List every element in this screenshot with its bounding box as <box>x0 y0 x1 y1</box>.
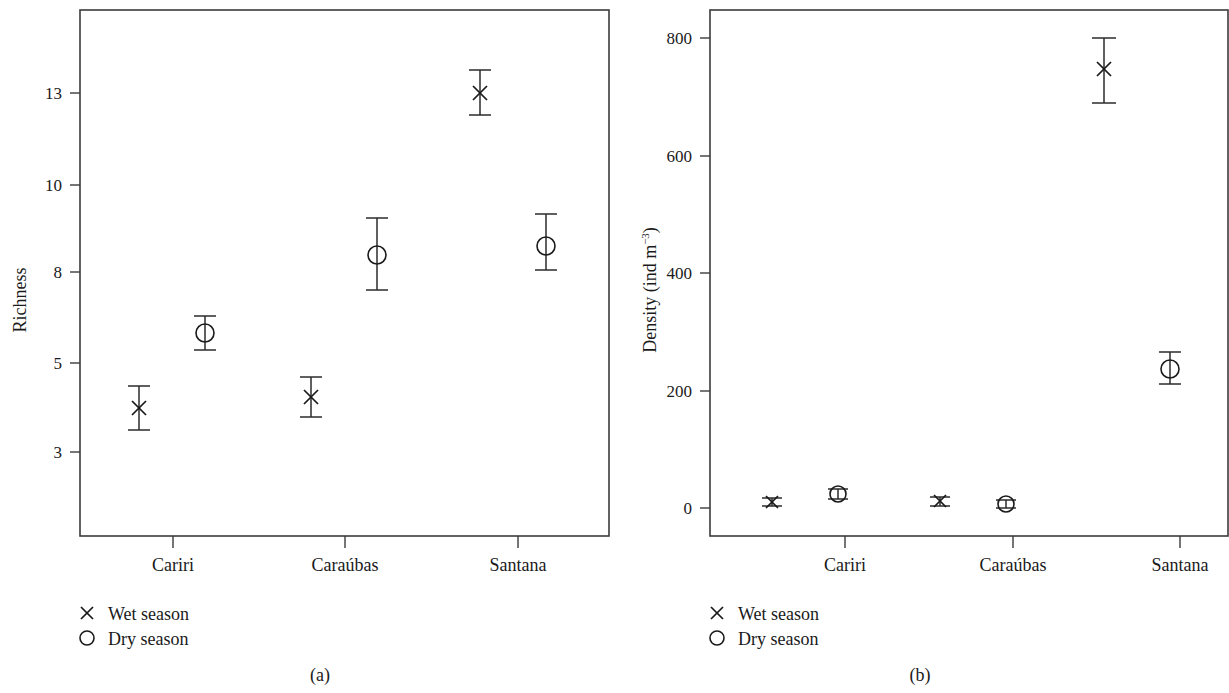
circle-marker-icon <box>80 631 94 645</box>
datapoint-b-santana-wet <box>1092 38 1116 103</box>
panel-caption-b: (b) <box>910 665 931 686</box>
datapoint-b-caraubas-dry <box>996 496 1016 512</box>
y-axis-a: 3 5 8 10 13 <box>45 84 80 462</box>
y-tick-label-600: 600 <box>667 147 693 166</box>
plot-frame-a <box>80 10 609 536</box>
y-axis-title-b: Density (ind m−3) <box>639 227 661 353</box>
datapoint-a-santana-wet <box>469 70 491 115</box>
y-tick-label-400: 400 <box>667 264 693 283</box>
x-tick-label-caraubas: Caraúbas <box>980 555 1047 575</box>
datapoint-b-caraubas-wet <box>930 495 950 507</box>
y-tick-label-8: 8 <box>54 263 63 282</box>
panel-caption-a: (a) <box>310 665 330 686</box>
y-tick-label-10: 10 <box>45 176 62 195</box>
legend-label-wet-season: Wet season <box>738 604 819 624</box>
y-tick-label-800: 800 <box>667 29 693 48</box>
x-tick-label-santana: Santana <box>490 555 547 575</box>
x-tick-label-caraubas: Caraúbas <box>312 555 379 575</box>
y-tick-label-13: 13 <box>45 84 62 103</box>
datapoint-b-cariri-wet <box>762 496 782 508</box>
y-tick-label-0: 0 <box>684 499 693 518</box>
circle-marker-icon <box>710 631 724 645</box>
figure-container: 3 5 8 10 13 Richness Cariri Caraúbas San… <box>0 0 1229 693</box>
y-axis-title-b-main: Density (ind m <box>640 245 661 353</box>
legend-b: Wet season Dry season <box>710 604 819 649</box>
legend-label-dry-season: Dry season <box>108 629 188 649</box>
panel-b-plot: 0 200 400 600 800 Density (ind m−3) Cari… <box>630 0 1229 693</box>
legend-label-dry-season: Dry season <box>738 629 818 649</box>
datapoint-b-cariri-dry <box>828 486 848 502</box>
y-axis-title-a: Richness <box>10 268 30 333</box>
x-tick-label-cariri: Cariri <box>152 555 194 575</box>
x-axis-b: Cariri Caraúbas Santana <box>824 536 1208 575</box>
x-tick-label-santana: Santana <box>1152 555 1209 575</box>
datapoint-a-cariri-dry <box>194 316 216 350</box>
y-tick-label-5: 5 <box>54 354 63 373</box>
panel-a-richness: 3 5 8 10 13 Richness Cariri Caraúbas San… <box>0 0 640 693</box>
x-axis-a: Cariri Caraúbas Santana <box>152 536 546 575</box>
y-tick-label-3: 3 <box>54 443 63 462</box>
datapoint-a-santana-dry <box>535 214 557 270</box>
y-axis-title-b-superscript: −3 <box>639 233 651 245</box>
panel-a-plot: 3 5 8 10 13 Richness Cariri Caraúbas San… <box>0 0 640 693</box>
datapoint-a-caraubas-dry <box>366 218 388 290</box>
y-axis-b: 0 200 400 600 800 <box>667 29 711 518</box>
datapoint-a-caraubas-wet <box>300 377 322 417</box>
y-axis-title-b-tail: ) <box>640 227 661 233</box>
x-tick-label-cariri: Cariri <box>824 555 866 575</box>
datapoint-a-cariri-wet <box>128 386 150 430</box>
y-tick-label-200: 200 <box>667 382 693 401</box>
datapoint-b-santana-dry <box>1159 352 1181 384</box>
panel-b-density: 0 200 400 600 800 Density (ind m−3) Cari… <box>630 0 1229 693</box>
plot-frame-b <box>710 10 1228 536</box>
legend-a: Wet season Dry season <box>80 604 189 649</box>
legend-label-wet-season: Wet season <box>108 604 189 624</box>
